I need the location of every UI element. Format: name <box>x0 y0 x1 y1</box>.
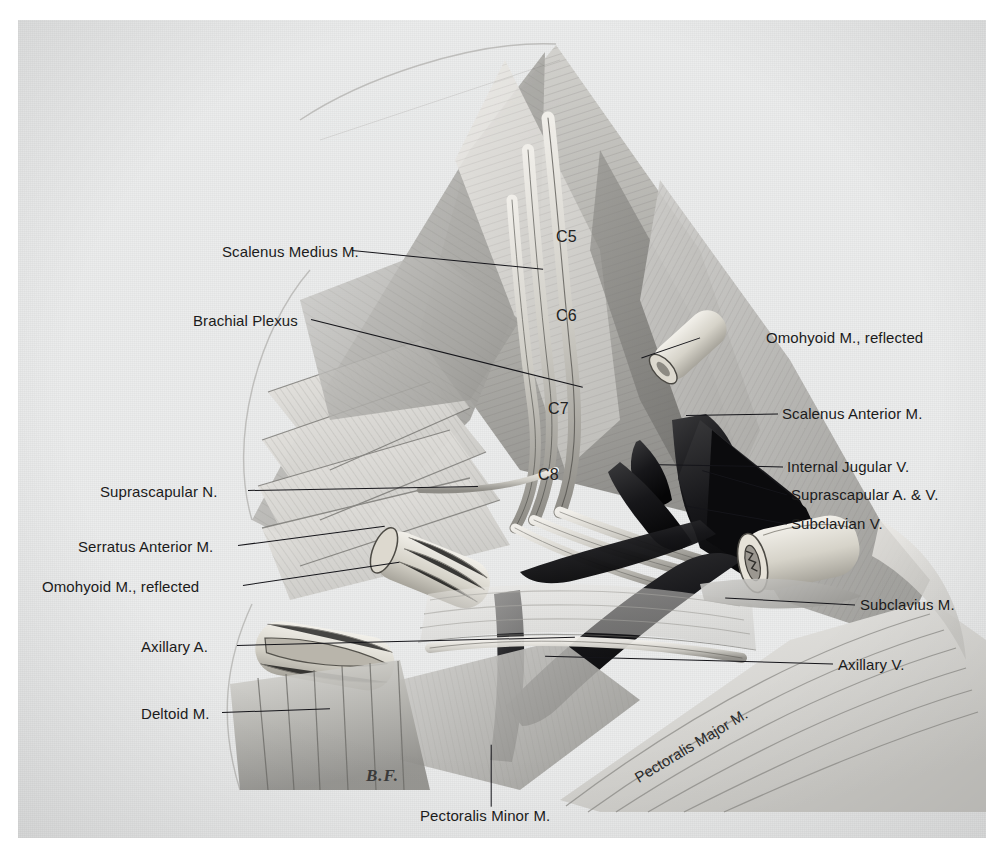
label-subclavius: Subclavius M. <box>860 597 955 612</box>
leader-pectoralis-minor <box>490 745 491 807</box>
label-scalenus-medius: Scalenus Medius M. <box>222 244 359 259</box>
nerve-root-c8: C8 <box>538 466 559 484</box>
label-internal-jugular-vein: Internal Jugular V. <box>787 459 909 474</box>
label-subclavian-vein: Subclavian V. <box>791 516 883 531</box>
label-axillary-artery: Axillary A. <box>141 639 208 654</box>
label-suprascapular-nerve: Suprascapular N. <box>100 484 218 499</box>
label-deltoid: Deltoid M. <box>141 706 210 721</box>
anatomy-drawing <box>0 0 1004 854</box>
label-omohyoid-reflected-left: Omohyoid M., reflected <box>42 579 199 594</box>
label-brachial-plexus: Brachial Plexus <box>193 313 298 328</box>
nerve-root-c6: C6 <box>556 307 577 325</box>
nerve-root-c7: C7 <box>548 400 569 418</box>
anatomy-plate-page: C5 C6 C7 C8 Scalenus Medius M. Brachial … <box>0 0 1004 854</box>
label-pectoralis-minor: Pectoralis Minor M. <box>420 808 550 823</box>
illustration-artwork <box>0 0 1004 854</box>
label-axillary-vein: Axillary V. <box>838 657 904 672</box>
label-scalenus-anterior: Scalenus Anterior M. <box>782 406 922 421</box>
artist-signature: B.F. <box>366 766 399 786</box>
label-suprascapular-artery-vein: Suprascapular A. & V. <box>791 487 938 502</box>
label-omohyoid-reflected-right: Omohyoid M., reflected <box>766 330 923 345</box>
label-serratus-anterior: Serratus Anterior M. <box>78 539 213 554</box>
nerve-root-c5: C5 <box>556 228 577 246</box>
